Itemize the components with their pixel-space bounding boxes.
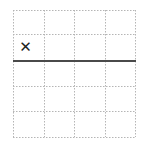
grid-cell-r3-c3[interactable] xyxy=(105,86,135,111)
x-mark-icon: ✕ xyxy=(15,40,36,55)
grid-cell-r0-c3[interactable] xyxy=(105,10,135,34)
game-board[interactable]: ✕ xyxy=(0,0,141,142)
grid-cell-r3-c0[interactable] xyxy=(13,86,44,111)
grid-cell-r4-c0[interactable] xyxy=(13,111,44,137)
grid-cell-r2-c0[interactable] xyxy=(13,61,44,86)
grid-cell-r4-c2[interactable] xyxy=(74,111,105,137)
grid-cell-r0-c1[interactable] xyxy=(44,10,74,34)
grid-cell-r2-c2[interactable] xyxy=(74,61,105,86)
grid-cell-r1-c3[interactable] xyxy=(105,34,135,61)
grid-cell-r1-c1[interactable] xyxy=(44,34,74,61)
grid-cell-r4-c1[interactable] xyxy=(44,111,74,137)
grid-cell-r2-c3[interactable] xyxy=(105,61,135,86)
grid-cell-r4-c3[interactable] xyxy=(105,111,135,137)
grid-cell-r3-c1[interactable] xyxy=(44,86,74,111)
grid-cell-r2-c1[interactable] xyxy=(44,61,74,86)
grid-cell-r3-c2[interactable] xyxy=(74,86,105,111)
grid-cell-r0-c0[interactable] xyxy=(13,10,44,34)
grid-cell-r0-c2[interactable] xyxy=(74,10,105,34)
grid-cell-r1-c2[interactable] xyxy=(74,34,105,61)
